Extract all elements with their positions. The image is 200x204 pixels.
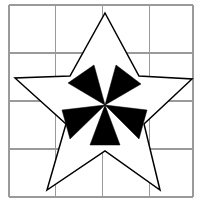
star-pinwheel-figure [0, 0, 200, 204]
